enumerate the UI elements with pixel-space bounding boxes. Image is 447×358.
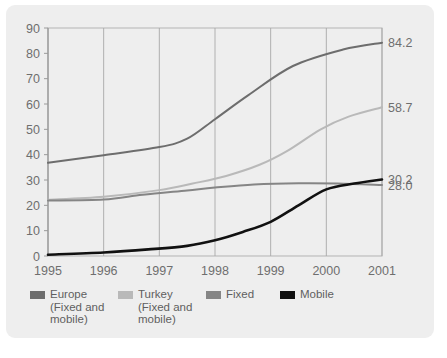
y-axis-tick-label: 80 xyxy=(26,47,40,61)
x-axis-tick-label: 2000 xyxy=(312,264,340,278)
legend-item-fixed[interactable]: Fixed xyxy=(206,288,280,301)
series-end-label: 58.7 xyxy=(388,101,412,115)
series-end-label: 84.2 xyxy=(388,36,412,50)
legend-item-label: Fixed xyxy=(226,288,254,301)
legend-item-mobile[interactable]: Mobile xyxy=(280,288,400,301)
legend-swatch-icon xyxy=(206,291,221,299)
y-axis-tick-label: 60 xyxy=(26,98,40,112)
legend-swatch-icon xyxy=(30,291,45,299)
legend-item-label: Europe (Fixed and mobile) xyxy=(50,288,104,326)
series-end-label: 30.2 xyxy=(388,173,412,187)
y-axis-tick-label: 40 xyxy=(26,148,40,162)
y-axis-tick-label: 0 xyxy=(33,250,40,264)
y-axis-tick-label: 70 xyxy=(26,72,40,86)
x-axis-tick-label: 1997 xyxy=(145,264,173,278)
y-axis-tick-label: 90 xyxy=(26,22,40,36)
y-axis-tick-label: 30 xyxy=(26,174,40,188)
x-axis-tick-label: 2001 xyxy=(368,264,396,278)
y-axis-tick-label: 50 xyxy=(26,123,40,137)
legend-item-label: Mobile xyxy=(300,288,334,301)
legend-item-europe[interactable]: Europe (Fixed and mobile) xyxy=(30,288,118,326)
x-axis-tick-label: 1996 xyxy=(90,264,118,278)
x-axis-tick-label: 1995 xyxy=(34,264,62,278)
chart-legend: Europe (Fixed and mobile)Turkey (Fixed a… xyxy=(30,288,420,326)
legend-swatch-icon xyxy=(280,291,295,299)
legend-item-turkey[interactable]: Turkey (Fixed and mobile) xyxy=(118,288,206,326)
y-axis-tick-label: 10 xyxy=(26,224,40,238)
legend-item-label: Turkey (Fixed and mobile) xyxy=(138,288,192,326)
legend-swatch-icon xyxy=(118,291,133,299)
x-axis-tick-label: 1999 xyxy=(257,264,285,278)
y-axis-tick-label: 20 xyxy=(26,199,40,213)
x-axis-tick-label: 1998 xyxy=(201,264,229,278)
